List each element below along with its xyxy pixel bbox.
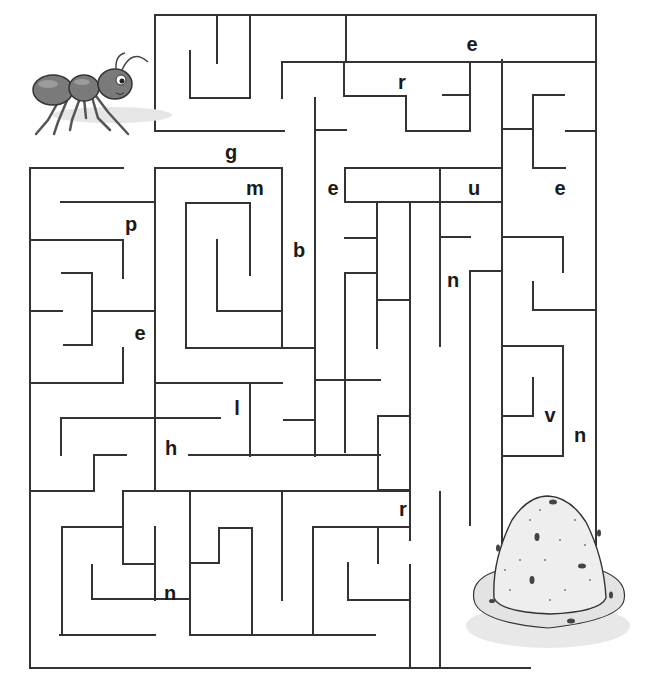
anthill-icon [466,496,630,648]
maze-letter: e [554,178,565,198]
maze-letter: e [134,323,145,343]
maze-letter: h [165,438,177,458]
ant-icon [33,53,172,134]
maze-letter: r [399,499,407,519]
maze-letter: v [544,405,555,425]
maze-letter: g [225,142,237,162]
maze-letter: l [234,398,240,418]
maze-letter: n [574,425,586,445]
maze-board [0,0,663,692]
maze-letter: u [468,178,480,198]
maze-letter: p [125,214,137,234]
maze-letter: e [327,178,338,198]
maze-letter: r [398,72,406,92]
maze-letter: b [293,240,305,260]
maze-letter: m [246,178,264,198]
maze-letter: n [164,583,176,603]
maze-letter: n [447,270,459,290]
maze-letter: e [466,34,477,54]
